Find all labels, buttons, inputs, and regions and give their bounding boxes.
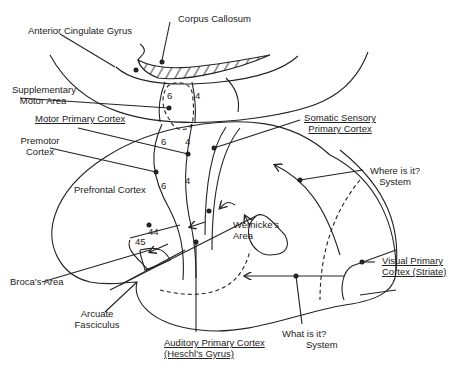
label-corpus-callosum: Corpus Callosum bbox=[178, 13, 251, 24]
area-4-lower: 4 bbox=[185, 175, 190, 186]
corpus-callosum bbox=[138, 55, 270, 79]
label-where-system: Where is it?System bbox=[364, 165, 426, 187]
label-anterior-cingulate: Anterior Cingulate Gyrus bbox=[28, 25, 132, 36]
label-visual: Visual PrimaryCortex (Striate) bbox=[382, 255, 446, 277]
label-brocas: Broca's Area bbox=[10, 276, 64, 287]
area-4-upper: 4 bbox=[185, 136, 190, 147]
label-motor-primary: Motor Primary Cortex bbox=[35, 113, 125, 124]
area-6-lower: 6 bbox=[161, 180, 166, 191]
label-supplementary-motor: SupplementaryMotor Area bbox=[12, 84, 74, 106]
label-premotor: PremotorCortex bbox=[18, 135, 62, 157]
label-arcuate: ArcuateFasciculus bbox=[74, 308, 120, 330]
area-44: 44 bbox=[148, 226, 159, 237]
label-prefrontal: Prefrontal Cortex bbox=[74, 184, 146, 195]
area-4-sma: 4 bbox=[195, 90, 200, 101]
label-auditory: Auditory Primary Cortex(Heschl's Gyrus) bbox=[164, 337, 265, 359]
area-45: 45 bbox=[135, 236, 146, 247]
label-somatic-sensory: Somatic SensoryPrimary Cortex bbox=[300, 112, 380, 134]
area-6-upper: 6 bbox=[161, 136, 166, 147]
area-6-sma: 6 bbox=[167, 90, 172, 101]
label-wernicke: Wernicke'sArea bbox=[233, 219, 279, 241]
label-what-system: What is it?System bbox=[282, 328, 338, 350]
